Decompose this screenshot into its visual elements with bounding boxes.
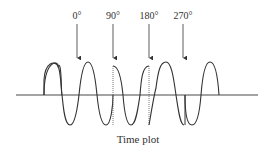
phase-jump-lines [113, 66, 149, 125]
phase-arrows [77, 24, 183, 58]
waveform [44, 62, 219, 125]
time-plot-diagram: 0° 90° 180° 270° Time plot [0, 0, 271, 153]
phase-label-0: 0° [73, 10, 82, 21]
phase-label-270: 270° [174, 10, 193, 21]
phase-label-90: 90° [106, 10, 120, 21]
caption: Time plot [117, 133, 160, 145]
phase-label-180: 180° [140, 10, 159, 21]
